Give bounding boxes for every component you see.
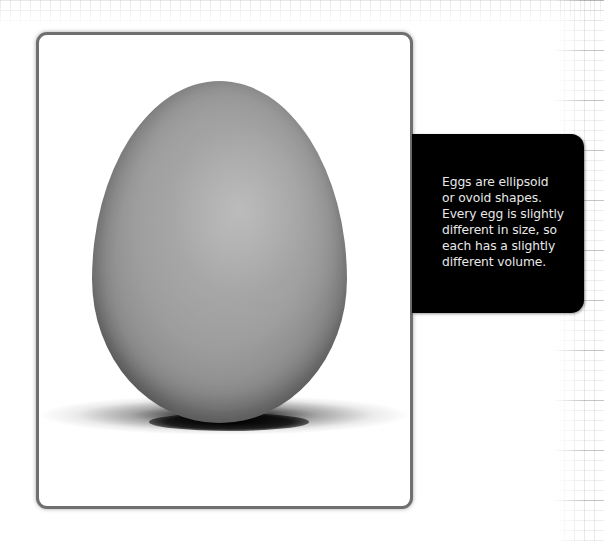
caption-line: each has a slightly — [442, 238, 582, 254]
caption-box: Eggs are ellipsoid or ovoid shapes. Ever… — [412, 134, 584, 313]
caption-text: Eggs are ellipsoid or ovoid shapes. Ever… — [442, 174, 582, 270]
caption-line: Eggs are ellipsoid — [442, 174, 582, 190]
caption-line: Every egg is slightly — [442, 206, 582, 222]
caption-line: different volume. — [442, 254, 582, 270]
grid-paper-top — [0, 0, 604, 26]
egg-photo-frame — [36, 32, 413, 509]
egg-image — [92, 81, 347, 423]
caption-line: or ovoid shapes. — [442, 190, 582, 206]
caption-line: different in size, so — [442, 222, 582, 238]
